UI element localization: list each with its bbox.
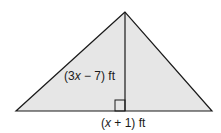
base-label: (x + 1) ft: [101, 116, 146, 130]
triangle-diagram: (3x − 7) ft (x + 1) ft: [0, 0, 221, 133]
triangle: [16, 12, 212, 111]
height-label: (3x − 7) ft: [64, 69, 116, 83]
